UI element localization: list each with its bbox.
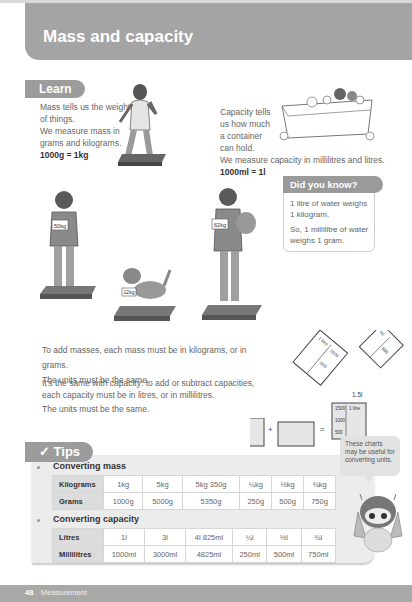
paragraph: It's the same with capacity: to add or s… bbox=[42, 378, 272, 390]
table-cell: 5350g bbox=[182, 493, 239, 510]
bullet bbox=[37, 519, 40, 522]
boy-mass-label: 50kg bbox=[54, 223, 66, 229]
boy-on-scale-illustration: 50kg bbox=[38, 186, 98, 310]
dog-mass-label: 12kg bbox=[124, 289, 135, 295]
paragraph: The units must be the same. bbox=[42, 404, 272, 416]
table-cell: ¼kg bbox=[240, 476, 272, 493]
bathtub-illustration bbox=[272, 86, 380, 144]
table-cell: 1kg bbox=[104, 476, 143, 493]
jug-label: 1 litre bbox=[349, 406, 361, 411]
table-cell: 250ml bbox=[233, 546, 267, 563]
table-cell: 750g bbox=[304, 493, 336, 510]
converting-mass-title: Converting mass bbox=[53, 461, 126, 471]
table-cell: ½kg bbox=[272, 476, 304, 493]
paragraph: each capacity must be in litres, or in m… bbox=[42, 390, 272, 402]
mascot-speech-bubble: These charts may be useful for convertin… bbox=[340, 436, 400, 476]
table-cell: 500ml bbox=[267, 546, 301, 563]
row-header: Millilitres bbox=[53, 546, 104, 563]
equals-sign: = bbox=[320, 425, 325, 434]
result-label: 1.5l bbox=[352, 391, 363, 398]
jug-mark: 1500 bbox=[335, 406, 346, 411]
table-cell: 1000ml bbox=[104, 546, 145, 563]
table-cell: ¼l bbox=[233, 529, 267, 546]
table-cell: 5000g bbox=[143, 493, 182, 510]
page-title: Mass and capacity bbox=[43, 27, 193, 47]
table-cell: 5kg bbox=[143, 476, 182, 493]
table-row: Millilitres 1000ml 3000ml 4825ml 250ml 5… bbox=[53, 546, 336, 563]
did-you-know-title: Did you know? bbox=[283, 176, 383, 193]
capacity-line: We measure capacity in millilitres and l… bbox=[220, 154, 410, 166]
bullet bbox=[37, 466, 40, 469]
table-row: Kilograms 1kg 5kg 5kg 350g ¼kg ½kg ¾kg bbox=[53, 476, 336, 493]
capacity-addition-text: It's the same with capacity: to add or s… bbox=[42, 378, 272, 416]
table-cell: ½l bbox=[267, 529, 301, 546]
did-you-know-body: 1 litre of water weighs 1 kilogram. So, … bbox=[290, 198, 374, 250]
row-header: Kilograms bbox=[53, 476, 104, 493]
girl-on-scale-illustration bbox=[112, 82, 170, 170]
table-cell: 750ml bbox=[301, 546, 335, 563]
table-cell: 250g bbox=[240, 493, 272, 510]
table-cell: 1000g bbox=[104, 493, 143, 510]
page-number: 48 bbox=[25, 588, 33, 597]
table-row: Grams 1000g 5000g 5350g 250g 500g 750g bbox=[53, 493, 336, 510]
dog-on-scale-illustration: 12kg bbox=[110, 260, 180, 330]
header-banner: Mass and capacity bbox=[25, 3, 412, 60]
table-cell: 1l bbox=[104, 529, 145, 546]
boy-dog-mass-label: 62kg bbox=[214, 222, 226, 228]
table-cell: ¾kg bbox=[304, 476, 336, 493]
page-footer: 48 Measurement bbox=[0, 585, 412, 602]
table-cell: 3000ml bbox=[145, 546, 186, 563]
table-row: Litres 1l 3l 4l 825ml ¼l ½l ¾l bbox=[53, 529, 336, 546]
tips-tag: ✓ Tips bbox=[25, 442, 93, 462]
row-header: Litres bbox=[53, 529, 104, 546]
plus-sign: + bbox=[268, 425, 273, 434]
table-cell: ¾l bbox=[301, 529, 335, 546]
table-cell: 5kg 350g bbox=[182, 476, 239, 493]
boy-with-dog-on-scale-illustration: 62kg bbox=[198, 183, 268, 333]
mass-conversion-table: Kilograms 1kg 5kg 5kg 350g ¼kg ½kg ¾kg G… bbox=[52, 475, 336, 510]
table-cell: 4825ml bbox=[186, 546, 233, 563]
converting-capacity-title: Converting capacity bbox=[53, 514, 139, 524]
table-cell: 500g bbox=[272, 493, 304, 510]
table-cell: 4l 825ml bbox=[186, 529, 233, 546]
fact-line: So, 1 millilitre of water weighs 1 gram. bbox=[290, 224, 374, 246]
footer-section: Measurement bbox=[41, 588, 87, 597]
fact-line: 1 litre of water weighs 1 kilogram. bbox=[290, 198, 374, 220]
table-cell: 3l bbox=[145, 529, 186, 546]
capacity-conversion-table: Litres 1l 3l 4l 825ml ¼l ½l ¾l Millilitr… bbox=[52, 528, 336, 563]
row-header: Grams bbox=[53, 493, 104, 510]
measuring-jugs-equation: + = bbox=[250, 418, 350, 458]
paragraph: To add masses, each mass must be in kilo… bbox=[42, 343, 272, 373]
learn-tag: Learn bbox=[25, 80, 85, 98]
robot-mascot-illustration bbox=[352, 492, 404, 562]
